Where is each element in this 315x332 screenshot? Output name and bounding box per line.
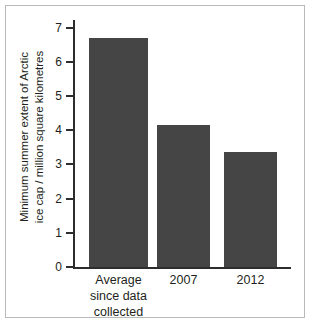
x-axis-category-label: 2012 xyxy=(206,272,296,288)
y-axis-tick xyxy=(66,95,74,97)
y-axis-tick xyxy=(66,198,74,200)
figure-frame: 01234567 Minimum summer extent of Arctic… xyxy=(5,5,305,318)
y-axis-tick-label: 0 xyxy=(44,261,62,273)
y-axis-tick xyxy=(66,129,74,131)
bar xyxy=(157,125,210,267)
bar-chart: 01234567 Minimum summer extent of Arctic… xyxy=(6,6,304,317)
y-axis-tick xyxy=(66,266,74,268)
y-axis-title: Minimum summer extent of Arctic ice cap … xyxy=(17,12,47,262)
bar xyxy=(89,38,148,267)
bar xyxy=(224,152,277,267)
y-axis-title-line-2: ice cap / million square kilometres xyxy=(32,12,47,262)
x-axis-category-label-line: collected xyxy=(74,304,164,320)
x-axis-category-label-line: 2012 xyxy=(206,272,296,288)
y-axis-tick xyxy=(66,232,74,234)
y-axis-tick xyxy=(66,27,74,29)
y-axis-tick xyxy=(66,163,74,165)
y-axis-tick xyxy=(66,61,74,63)
y-axis-title-line-1: Minimum summer extent of Arctic xyxy=(17,12,32,262)
x-axis-line xyxy=(73,267,291,269)
x-axis-category-label-line: since data xyxy=(74,288,164,304)
